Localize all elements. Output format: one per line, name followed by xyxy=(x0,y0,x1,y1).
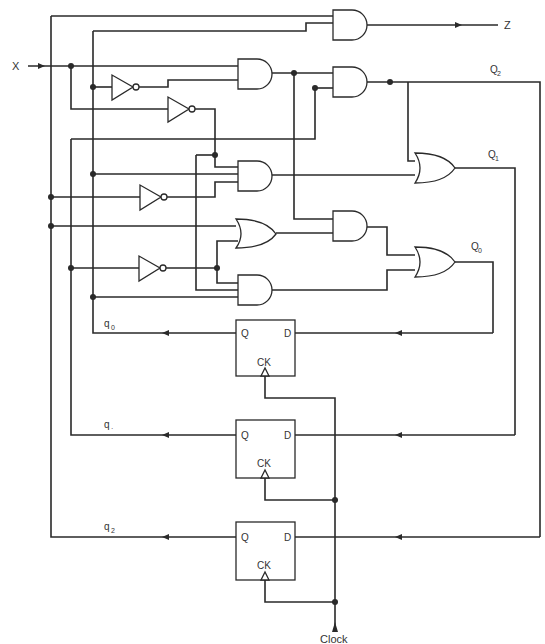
svg-text:2: 2 xyxy=(111,527,115,534)
svg-text:CK: CK xyxy=(257,357,271,368)
svg-text:Q: Q xyxy=(241,430,249,441)
svg-text:0: 0 xyxy=(111,324,115,331)
z-output-label: Z xyxy=(504,19,511,31)
svg-text:0: 0 xyxy=(478,247,482,254)
q0-state-label: q xyxy=(104,318,110,329)
svg-text:2: 2 xyxy=(497,70,501,77)
circuit-labels: X Z Clock Q 2 Q 1 Q 0 q 0 q · q 2 Q D CK… xyxy=(0,0,545,644)
svg-text:Q: Q xyxy=(241,328,249,339)
svg-text:D: D xyxy=(284,430,291,441)
x-input-label: X xyxy=(12,60,20,72)
clock-label: Clock xyxy=(320,633,348,644)
svg-text:D: D xyxy=(284,532,291,543)
q2-state-label: q xyxy=(104,521,110,532)
svg-text:D: D xyxy=(284,328,291,339)
svg-text:1: 1 xyxy=(495,155,499,162)
svg-text:Q: Q xyxy=(241,532,249,543)
svg-text:CK: CK xyxy=(257,560,271,571)
svg-text:·: · xyxy=(111,425,113,432)
svg-text:CK: CK xyxy=(257,458,271,469)
q1-state-label: q xyxy=(104,419,110,430)
